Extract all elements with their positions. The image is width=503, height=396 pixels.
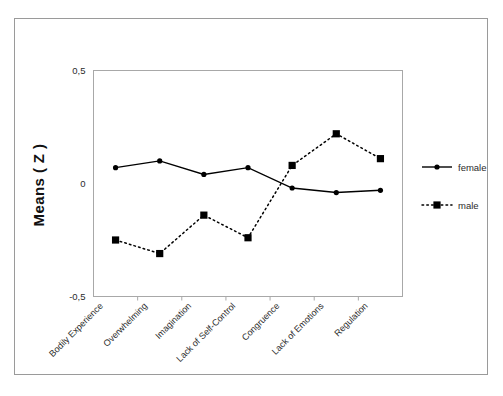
- data-point-female-4: [290, 185, 295, 190]
- x-tick-label: Congruence: [240, 301, 282, 343]
- data-point-male-3: [244, 234, 251, 241]
- legend-label-female: female: [458, 162, 487, 173]
- plot-area-frame: [94, 71, 403, 297]
- figure-root: Means ( Z ) 0,50-0,5 Bodily ExperienceOv…: [0, 0, 503, 396]
- x-tick-label: Bodily Experience: [47, 301, 105, 359]
- x-tick-label: Imagination: [153, 301, 193, 341]
- y-tick-label: 0,5: [72, 65, 85, 76]
- x-tick-label: Regulation: [332, 301, 369, 338]
- y-axis-tick-labels: 0,50-0,5: [69, 65, 85, 302]
- data-point-male-4: [289, 162, 296, 169]
- data-point-male-6: [377, 155, 384, 162]
- y-axis-title: Means ( Z ): [30, 144, 47, 227]
- data-point-male-5: [333, 130, 340, 137]
- y-tick-label: 0: [80, 178, 85, 189]
- data-point-female-2: [201, 172, 206, 177]
- data-point-female-0: [113, 165, 118, 170]
- x-axis-category-labels: Bodily ExperienceOverwhelmingImagination…: [47, 297, 370, 364]
- legend-label-male: male: [458, 200, 479, 211]
- data-point-female-6: [378, 188, 383, 193]
- data-point-male-1: [156, 250, 163, 257]
- data-point-male-2: [200, 212, 207, 219]
- data-point-female-1: [157, 158, 162, 163]
- data-series-group: [112, 130, 384, 257]
- data-point-female-5: [334, 190, 339, 195]
- data-point-male-0: [112, 236, 119, 243]
- y-tick-label: -0,5: [69, 291, 85, 302]
- x-tick-label: Overwhelming: [101, 301, 149, 349]
- circle-marker-icon: [434, 164, 439, 169]
- chart-legend: femalemale: [422, 162, 487, 211]
- square-marker-icon: [433, 201, 440, 208]
- line-chart: Means ( Z ) 0,50-0,5 Bodily ExperienceOv…: [0, 0, 503, 396]
- data-point-female-3: [245, 165, 250, 170]
